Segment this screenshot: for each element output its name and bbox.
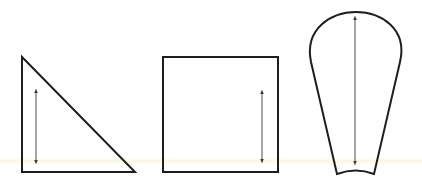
square-figure	[163, 57, 278, 172]
triangle-figure	[22, 57, 135, 172]
rounded-tapered-shape	[310, 12, 401, 174]
right-triangle-shape	[22, 57, 135, 172]
shapes-diagram	[0, 0, 422, 186]
tapered-figure	[310, 12, 401, 174]
square-shape	[163, 57, 278, 172]
